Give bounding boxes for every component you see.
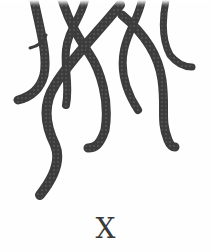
caption-letter: X	[0, 214, 211, 244]
tentacles-illustration	[0, 0, 211, 200]
top-fade	[0, 0, 211, 6]
card-page: X	[0, 0, 211, 252]
